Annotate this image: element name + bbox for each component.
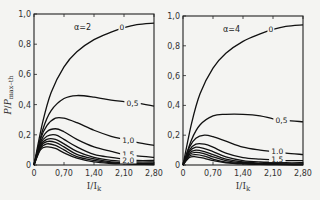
curve-label: 2,0 — [122, 156, 134, 165]
chart-panel-alpha-2: 00,20,40,60,81,000,701,402,102,80I/Ikα=2… — [18, 10, 163, 193]
x-axis-title: I/Ik — [87, 181, 102, 193]
y-tick-label: 0,8 — [167, 42, 180, 51]
x-tick-label: 0 — [180, 169, 185, 178]
x-tick-label: 2,80 — [294, 169, 312, 178]
y-tick-label: 0,4 — [167, 101, 180, 110]
x-tick-label: 0 — [31, 169, 36, 178]
y-tick-label: 0,6 — [18, 70, 31, 79]
x-tick-label: 1,40 — [234, 169, 252, 178]
x-axis-title: I/Ik — [236, 181, 251, 193]
x-tick-label: 2,10 — [264, 169, 282, 178]
y-tick-label: 0 — [175, 161, 180, 170]
x-tick-label: 0,70 — [204, 169, 222, 178]
y-axis-title: P/Pmax–th — [3, 76, 15, 116]
curve-label: 0,5 — [127, 99, 139, 108]
curve-label: 1,5 — [271, 155, 283, 164]
x-tick-label: 2,10 — [115, 169, 133, 178]
x-tick-label: 2,80 — [145, 169, 163, 178]
y-tick-label: 0 — [26, 161, 31, 170]
chart-panel-alpha-4: 00,20,40,60,81,000,701,402,102,80I/Ikα=4… — [167, 12, 312, 193]
y-tick-label: 0,2 — [18, 131, 31, 140]
panel-alpha-label: α=4 — [223, 25, 240, 34]
curve-label: 0 — [119, 23, 124, 32]
y-tick-label: 1,0 — [18, 10, 31, 19]
panel-alpha-label: α=2 — [74, 23, 91, 32]
curve-label: 1,0 — [122, 136, 134, 145]
y-tick-label: 0,8 — [18, 40, 31, 49]
chart-figure: 00,20,40,60,81,000,701,402,102,80I/Ikα=2… — [0, 0, 320, 200]
x-tick-label: 1,40 — [85, 169, 103, 178]
y-tick-label: 0,4 — [18, 101, 31, 110]
y-tick-label: 1,0 — [167, 12, 180, 21]
y-tick-label: 0,2 — [167, 131, 180, 140]
x-tick-label: 0,70 — [55, 169, 73, 178]
curve-label: 0,5 — [276, 116, 288, 125]
y-tick-label: 0,6 — [167, 72, 180, 81]
curve-label: 0 — [268, 25, 273, 34]
